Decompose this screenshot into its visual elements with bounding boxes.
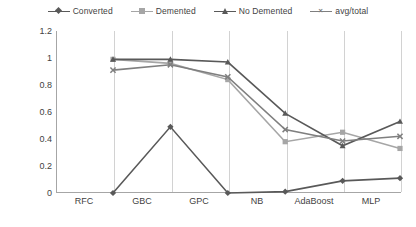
data-point-marker [397, 175, 403, 181]
line-chart: Converted Demented No Demented × avg/tot… [0, 0, 416, 227]
data-point-marker [397, 118, 403, 123]
data-point-marker [283, 139, 288, 144]
series-layer [0, 0, 416, 227]
data-point-marker [397, 146, 402, 151]
data-point-marker [340, 130, 345, 135]
data-point-marker [282, 189, 288, 195]
data-point-marker [339, 178, 345, 184]
series-line-avg-total [113, 65, 400, 141]
